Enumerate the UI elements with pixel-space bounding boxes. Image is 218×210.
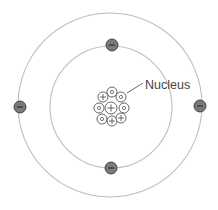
proton bbox=[105, 102, 117, 114]
neutron-icon bbox=[94, 103, 104, 113]
electron-top bbox=[106, 39, 118, 51]
proton bbox=[107, 116, 117, 126]
electron-bottom bbox=[105, 162, 117, 174]
neutron bbox=[97, 114, 107, 124]
electron-right bbox=[194, 100, 206, 112]
neutron-icon bbox=[107, 87, 117, 97]
neutron bbox=[94, 103, 104, 113]
neutron bbox=[116, 92, 126, 102]
neutron-icon bbox=[116, 92, 126, 102]
neutron-icon bbox=[97, 114, 107, 124]
electron-left bbox=[14, 101, 26, 113]
proton bbox=[98, 92, 108, 102]
neutron bbox=[107, 87, 117, 97]
neutron bbox=[119, 103, 129, 113]
neutron-icon bbox=[119, 103, 129, 113]
nucleus-label: Nucleus bbox=[145, 78, 190, 92]
proton bbox=[116, 113, 126, 123]
atom-diagram: Nucleus bbox=[0, 0, 218, 210]
